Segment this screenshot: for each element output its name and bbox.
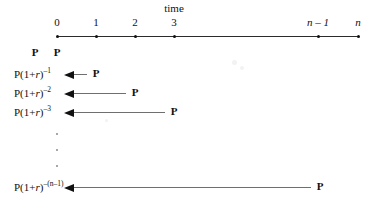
discount-arrow [73,187,311,188]
payment-mark: P [132,86,139,99]
tick-label: 1 [93,16,99,29]
scan-speckle [232,60,237,65]
discount-arrow [73,74,87,75]
tick-label: n – 1 [307,16,329,29]
tick-dot [95,35,98,38]
present-value-label: P(1+r)–1 [14,68,51,81]
present-value-label: P(1+r)–2 [14,87,51,100]
payment-mark: P [317,180,324,193]
tick-dot [134,35,137,38]
tick-dot [357,35,360,38]
scan-speckle [240,66,244,70]
tick-label: 3 [171,16,177,29]
scan-speckle [105,119,108,122]
ellipsis-dot [56,133,58,135]
present-value-label: P(1+r)–(n–1) [14,181,63,194]
tick-dot [56,35,59,38]
tick-dot [317,35,320,38]
tick-label: 0 [54,16,60,29]
tick-dot [173,35,176,38]
present-value-label: P(1+r)–3 [14,106,51,119]
payment-mark: P [54,46,61,59]
present-value-timeline-figure: time 0123n – 1n PP P(1+r)–1PP(1+r)–2PP(1… [0,0,378,205]
ellipsis-dot [56,165,58,167]
payment-mark: P [171,105,178,118]
discount-arrow [73,112,165,113]
timeline-axis-line [57,36,358,37]
ellipsis-dot [56,149,58,151]
payment-mark: P [32,46,39,59]
tick-label: 2 [132,16,138,29]
payment-mark: P [93,67,100,80]
time-axis-caption: time [164,2,184,15]
discount-arrow [73,93,126,94]
tick-label: n [355,16,361,29]
